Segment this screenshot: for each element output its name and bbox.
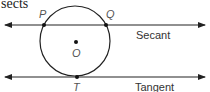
secant-label: Secant	[136, 29, 170, 41]
tangent-label: Tangent	[135, 81, 174, 92]
point-t	[75, 75, 79, 79]
point-q	[104, 23, 108, 27]
label-q: Q	[106, 8, 115, 20]
point-o	[74, 40, 78, 44]
header-fragment: sects	[1, 0, 28, 11]
label-t: T	[73, 81, 81, 92]
label-o: O	[72, 47, 81, 59]
label-p: P	[39, 8, 47, 20]
circle-secant-tangent-diagram: sects P Q O T Secant Tangent	[0, 0, 210, 92]
point-p	[42, 23, 46, 27]
